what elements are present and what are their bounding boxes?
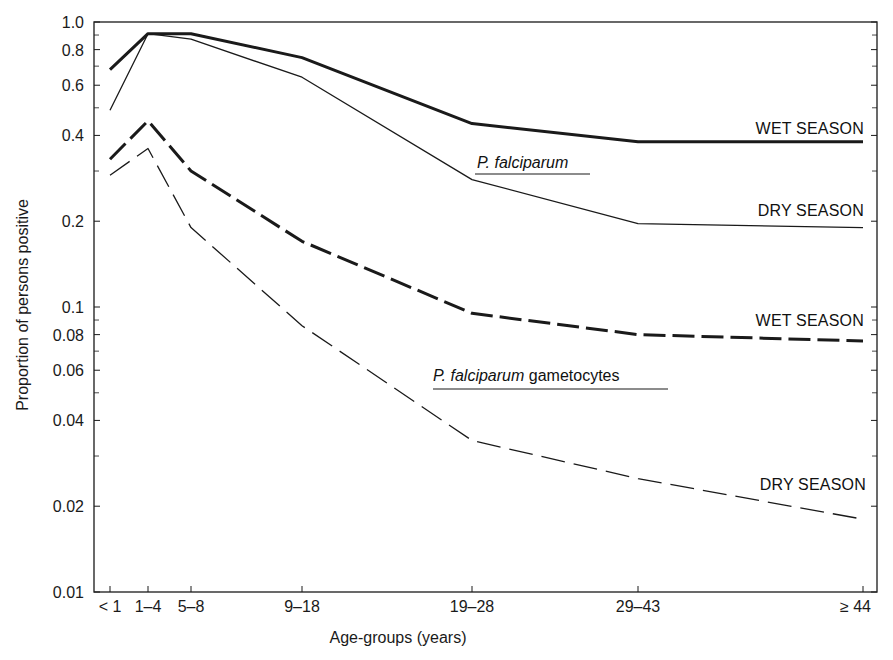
x-tick-label: 1–4 — [135, 598, 162, 615]
group-label: P. falciparum — [477, 154, 568, 171]
x-tick-label: ≥ 44 — [840, 598, 871, 615]
y-axis: 1.00.80.60.40.20.10.080.060.040.020.01 — [53, 14, 877, 601]
plot-frame — [94, 22, 877, 592]
series-line-2 — [110, 34, 863, 228]
series-labels: WET SEASONDRY SEASONWET SEASONDRY SEASON — [756, 120, 866, 493]
series-line-4 — [110, 149, 863, 520]
group-label-italic: P. falciparum — [433, 367, 524, 384]
y-tick-label: 0.2 — [62, 213, 84, 230]
series-label: WET SEASON — [756, 120, 864, 137]
y-tick-label: 0.4 — [62, 127, 84, 144]
chart: 1.00.80.60.40.20.10.080.060.040.020.01 <… — [0, 0, 893, 660]
y-tick-label: 1.0 — [62, 14, 84, 31]
x-tick-label: 5–8 — [178, 598, 205, 615]
y-axis-title: Proportion of persons positive — [14, 199, 31, 411]
group-label-italic: P. falciparum — [477, 154, 568, 171]
x-axis-title: Age-groups (years) — [330, 629, 467, 646]
plot-border — [94, 22, 877, 592]
y-tick-label: 0.8 — [62, 42, 84, 59]
group-label: P. falciparum gametocytes — [433, 367, 619, 384]
y-tick-label: 0.6 — [62, 77, 84, 94]
series-label: WET SEASON — [756, 312, 864, 329]
y-tick-label: 0.02 — [53, 498, 84, 515]
series-lines — [110, 34, 863, 520]
y-tick-label: 0.01 — [53, 584, 84, 601]
x-tick-label: 29–43 — [616, 598, 661, 615]
series-label: DRY SEASON — [760, 476, 866, 493]
y-tick-label: 0.1 — [62, 299, 84, 316]
x-tick-label: < 1 — [99, 598, 122, 615]
group-labels: P. falciparumP. falciparum gametocytes — [433, 154, 668, 389]
group-label-rest: gametocytes — [524, 367, 619, 384]
y-tick-label: 0.08 — [53, 327, 84, 344]
x-tick-label: 9–18 — [284, 598, 320, 615]
y-tick-label: 0.04 — [53, 412, 84, 429]
y-tick-label: 0.06 — [53, 362, 84, 379]
series-label: DRY SEASON — [758, 202, 864, 219]
x-tick-label: 19–28 — [450, 598, 495, 615]
x-axis: < 11–45–89–1819–2829–43≥ 44 — [99, 586, 871, 615]
